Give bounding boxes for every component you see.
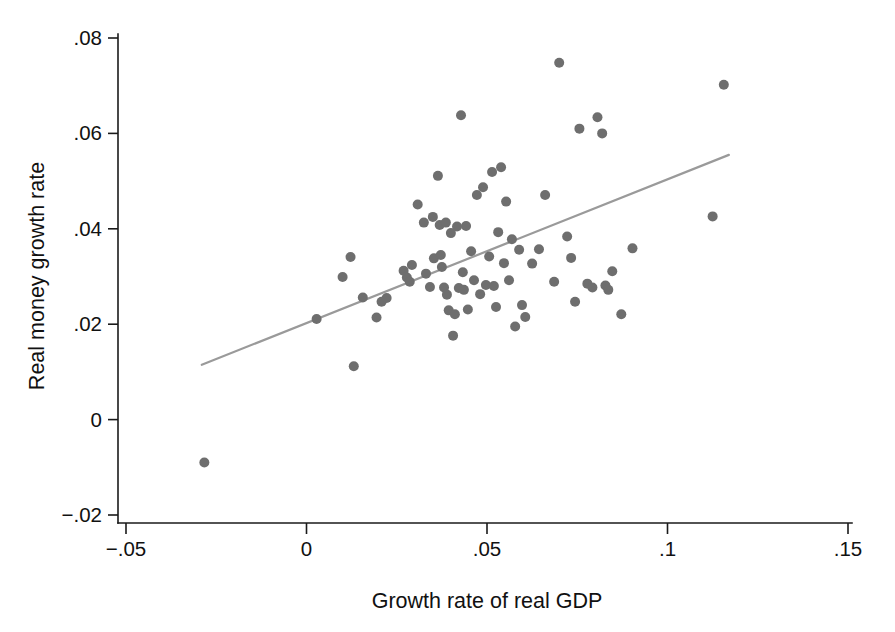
- tick-marks: [108, 38, 848, 534]
- data-point: [499, 258, 509, 268]
- data-point: [566, 253, 576, 263]
- data-point: [484, 251, 494, 261]
- data-point: [708, 211, 718, 221]
- axes: [118, 34, 852, 523]
- data-point: [507, 234, 517, 244]
- data-point: [501, 197, 511, 207]
- data-point: [493, 227, 503, 237]
- data-point: [534, 244, 544, 254]
- data-point: [312, 314, 322, 324]
- data-point: [554, 58, 564, 68]
- data-point: [574, 124, 584, 134]
- data-point: [616, 309, 626, 319]
- x-tick-label: .1: [659, 537, 676, 560]
- data-point: [437, 262, 447, 272]
- data-point: [349, 361, 359, 371]
- chart-figure: −.020.02.04.06.08−.050.05.1.15 Growth ra…: [0, 0, 895, 632]
- data-points: [199, 58, 728, 468]
- data-point: [463, 304, 473, 314]
- data-point: [421, 269, 431, 279]
- data-point: [372, 313, 382, 323]
- data-point: [441, 218, 451, 228]
- data-point: [448, 331, 458, 341]
- data-point: [496, 162, 506, 172]
- y-tick-label: 0: [91, 408, 102, 431]
- data-point: [597, 128, 607, 138]
- data-point: [587, 282, 597, 292]
- data-point: [459, 285, 469, 295]
- data-point: [504, 275, 514, 285]
- data-point: [450, 309, 460, 319]
- y-axis-title: Real money growth rate: [25, 162, 49, 390]
- data-point: [466, 246, 476, 256]
- data-point: [338, 272, 348, 282]
- y-tick-label: .04: [74, 217, 103, 240]
- y-tick-label: .08: [74, 26, 103, 49]
- data-point: [413, 199, 423, 209]
- data-point: [199, 458, 209, 468]
- data-point: [520, 312, 530, 322]
- data-point: [461, 221, 471, 231]
- fit-line: [202, 155, 729, 365]
- data-point: [514, 245, 524, 255]
- x-tick-label: −.05: [106, 537, 146, 560]
- data-point: [510, 322, 520, 332]
- y-tick-label: .06: [74, 121, 103, 144]
- data-point: [358, 292, 368, 302]
- data-point: [487, 167, 497, 177]
- data-point: [549, 277, 559, 287]
- x-tick-label: 0: [301, 537, 312, 560]
- regression-line: [202, 155, 729, 365]
- x-tick-label: .05: [473, 537, 502, 560]
- y-tick-label: −.02: [62, 503, 102, 526]
- scatter-plot: −.020.02.04.06.08−.050.05.1.15 Growth ra…: [0, 0, 895, 632]
- data-point: [419, 218, 429, 228]
- data-point: [458, 267, 468, 277]
- data-point: [425, 282, 435, 292]
- x-axis-title: Growth rate of real GDP: [372, 589, 603, 613]
- data-point: [442, 290, 452, 300]
- data-point: [570, 297, 580, 307]
- data-point: [491, 302, 501, 312]
- data-point: [603, 285, 613, 295]
- data-point: [517, 300, 527, 310]
- data-point: [527, 259, 537, 269]
- data-point: [562, 231, 572, 241]
- data-point: [433, 171, 443, 181]
- data-point: [405, 277, 415, 287]
- data-point: [478, 182, 488, 192]
- data-point: [456, 110, 466, 120]
- data-point: [627, 243, 637, 253]
- data-point: [428, 212, 438, 222]
- data-point: [607, 266, 617, 276]
- data-point: [719, 80, 729, 90]
- data-point: [452, 221, 462, 231]
- data-point: [382, 293, 392, 303]
- data-point: [592, 112, 602, 122]
- data-point: [346, 252, 356, 262]
- y-tick-label: .02: [74, 312, 103, 335]
- data-point: [475, 289, 485, 299]
- data-point: [540, 190, 550, 200]
- data-point: [469, 275, 479, 285]
- data-point: [407, 260, 417, 270]
- x-tick-label: .15: [834, 537, 863, 560]
- data-point: [436, 250, 446, 260]
- data-point: [489, 281, 499, 291]
